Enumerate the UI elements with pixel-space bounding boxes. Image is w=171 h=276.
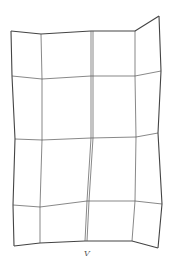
grid-row-line xyxy=(13,201,162,207)
grid-row-line xyxy=(15,133,158,140)
grid-row-line xyxy=(11,16,159,34)
grid-column-line xyxy=(85,31,91,241)
grid-column-line xyxy=(40,34,42,243)
deformed-grid-diagram xyxy=(0,0,171,276)
grid-column-line xyxy=(11,31,15,246)
grid-column-line xyxy=(158,16,162,248)
grid-row-line xyxy=(14,241,158,248)
grid-row-line xyxy=(12,71,161,79)
grid-column-line xyxy=(132,31,136,241)
grid-label-v: V xyxy=(84,249,90,258)
grid-column-line-double xyxy=(87,31,93,241)
